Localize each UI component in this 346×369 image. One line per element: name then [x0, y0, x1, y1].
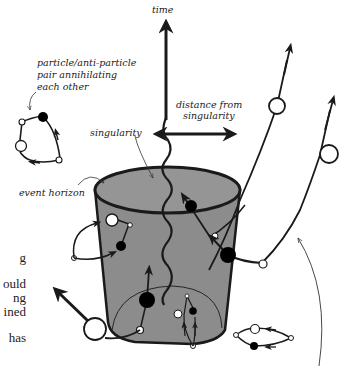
- event-horizon-label: event horizon: [19, 187, 85, 198]
- black-hole-hawking-radiation-diagram: [0, 0, 346, 369]
- escaping-particle-path-2: [262, 100, 338, 263]
- black-hole-cup: [95, 167, 240, 344]
- body-text-fragment: has: [9, 330, 26, 346]
- singularity-label: singularity: [90, 127, 142, 138]
- particle-white: [269, 98, 285, 114]
- event-horizon-rim: [95, 167, 240, 213]
- particle-white: [320, 145, 338, 163]
- distance-label-line2: singularity: [183, 110, 235, 121]
- pair-annihilation-label-line3: each other: [37, 81, 89, 92]
- body-text-fragment: ined: [4, 304, 26, 320]
- pair-annihilation-label-line2: pair annihilating: [37, 69, 117, 80]
- time-label: time: [152, 4, 174, 15]
- distance-label-line1: distance from: [176, 99, 242, 110]
- pointer-line-bottom-right: [298, 238, 322, 366]
- annihilation-loop-upper-left: [16, 92, 63, 163]
- pair-annihilation-label-line1: particle/anti-particle: [37, 57, 136, 68]
- body-text-fragment: g: [20, 250, 27, 266]
- annihilation-loop-lower-right: [234, 325, 294, 351]
